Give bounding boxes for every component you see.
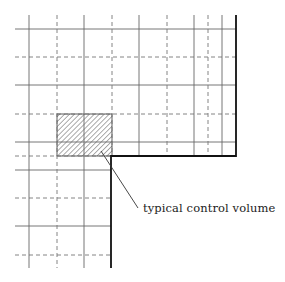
control-volume-hatched: [57, 114, 112, 156]
grid-diagram: [0, 0, 285, 282]
annotation-leader-line: [101, 151, 138, 208]
solid-horizontal-lines: [15, 29, 236, 226]
annotation-label: typical control volume: [143, 201, 275, 215]
domain-boundary: [111, 15, 236, 268]
